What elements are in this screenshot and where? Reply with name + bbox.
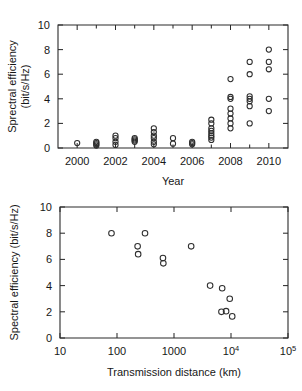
data-point xyxy=(170,136,175,141)
x-tick-label: 105 xyxy=(280,344,296,357)
data-point xyxy=(266,59,271,64)
data-point xyxy=(266,109,271,114)
x-tick-label: 2006 xyxy=(180,155,204,167)
data-point xyxy=(219,285,225,291)
y-tick-label: 2 xyxy=(46,306,52,318)
x-tick-label: 2004 xyxy=(142,155,166,167)
data-point xyxy=(151,126,156,131)
data-point xyxy=(266,96,271,101)
top-chart-figure: 0246810200020022004200620082010YearSprec… xyxy=(0,0,302,195)
data-point xyxy=(135,244,141,250)
y-tick-label: 6 xyxy=(46,253,52,265)
y-tick-label: 8 xyxy=(46,227,52,239)
y-tick-label: 0 xyxy=(44,142,50,154)
data-point xyxy=(247,121,252,126)
y-tick-label: 10 xyxy=(40,201,52,213)
y-tick-label: 2 xyxy=(44,117,50,129)
x-tick-label: 2008 xyxy=(218,155,242,167)
x-tick-label: 2000 xyxy=(65,155,89,167)
x-tick-label: 104 xyxy=(223,344,239,357)
data-point xyxy=(227,296,233,302)
plot-frame xyxy=(60,207,288,338)
y-tick-label: 10 xyxy=(38,19,50,31)
spectral-efficiency-vs-distance-plot: 0246810101001000104105Transmission dista… xyxy=(0,195,302,391)
y-axis-title: Spectral efficiency (bit/s/Hz) xyxy=(8,204,20,340)
y-axis-title-line2: (bit/s/Hz) xyxy=(19,65,31,109)
x-tick-label: 100 xyxy=(108,345,126,357)
y-tick-label: 4 xyxy=(46,280,52,292)
data-point xyxy=(266,47,271,52)
data-point xyxy=(135,251,141,257)
y-tick-label: 8 xyxy=(44,44,50,56)
y-tick-label: 0 xyxy=(46,332,52,344)
x-axis-title: Year xyxy=(162,175,185,187)
data-point xyxy=(228,77,233,82)
plot-frame xyxy=(58,25,288,148)
y-tick-label: 6 xyxy=(44,68,50,80)
data-point xyxy=(207,283,213,289)
y-axis-title-line1: Sprectral efficiency xyxy=(6,40,18,133)
data-point xyxy=(188,244,194,250)
data-point xyxy=(229,314,235,320)
data-point xyxy=(209,117,214,122)
data-point xyxy=(247,72,252,77)
y-tick-label: 4 xyxy=(44,93,50,105)
data-point xyxy=(109,230,115,236)
bottom-chart-figure: 0246810101001000104105Transmission dista… xyxy=(0,195,302,391)
data-point xyxy=(142,230,148,236)
data-point xyxy=(247,59,252,64)
x-axis-title: Transmission distance (km) xyxy=(107,366,241,378)
x-tick-label: 2002 xyxy=(103,155,127,167)
x-tick-label: 1000 xyxy=(162,345,186,357)
spectral-efficiency-vs-year-plot: 0246810200020022004200620082010YearSprec… xyxy=(0,0,302,195)
y-axis-title: Sprectral efficiency(bit/s/Hz) xyxy=(6,40,31,133)
data-point xyxy=(266,67,271,72)
x-tick-label: 2010 xyxy=(257,155,281,167)
x-tick-label: 10 xyxy=(54,345,66,357)
